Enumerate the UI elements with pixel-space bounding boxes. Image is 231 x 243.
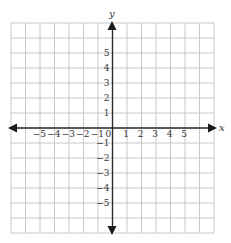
x-axis-right-arrow-icon <box>208 124 217 133</box>
y-tick-label: −4 <box>96 183 110 193</box>
y-tick-label: −3 <box>96 168 110 178</box>
x-tick-label: 4 <box>167 129 173 139</box>
y-axis-label: y <box>108 8 115 19</box>
x-tick-label: −3 <box>62 129 76 139</box>
x-axis-left-arrow-icon <box>8 124 17 133</box>
x-tick-label: 3 <box>152 129 158 139</box>
y-tick-label: 4 <box>104 63 110 73</box>
y-axis-up-arrow-icon <box>108 21 117 30</box>
y-tick-label: 5 <box>104 48 110 58</box>
x-axis-label: x <box>219 122 225 133</box>
y-tick-label: 3 <box>104 78 110 88</box>
x-tick-label: −2 <box>76 129 89 139</box>
y-tick-label: 2 <box>104 93 110 103</box>
y-axis-down-arrow-icon <box>108 226 117 235</box>
y-tick-label: 1 <box>104 108 110 118</box>
x-tick-label: −5 <box>33 129 47 139</box>
y-tick-label: −5 <box>96 198 110 208</box>
y-tick-label: −1 <box>96 138 109 148</box>
x-tick-label: 1 <box>123 129 129 139</box>
x-tick-label: 2 <box>138 129 144 139</box>
coordinate-plane: x y 0 −5−4−3−2−112345 54321−1−2−3−4−5 <box>0 0 231 243</box>
x-tick-label: −4 <box>47 129 61 139</box>
x-tick-label: 5 <box>181 129 187 139</box>
y-tick-label: −2 <box>96 153 109 163</box>
